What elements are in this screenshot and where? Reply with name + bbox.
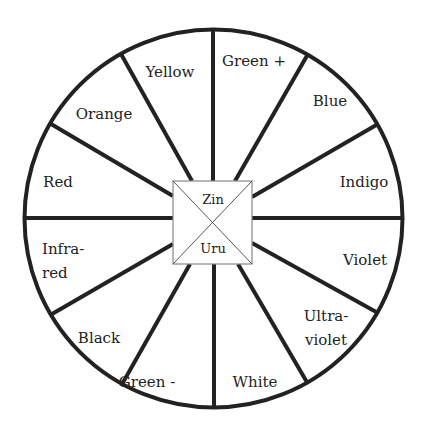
segment-label-white: White [233, 373, 278, 391]
segment-label-green-minus: Green - [119, 373, 175, 391]
segment-label-violet: Violet [342, 251, 387, 269]
segment-label-orange: Orange [76, 105, 133, 123]
segment-label-yellow: Yellow [145, 63, 195, 81]
segment-label-blue: Blue [313, 92, 347, 110]
center-top-label: Zin [202, 192, 224, 207]
segment-label-black: Black [78, 329, 121, 347]
segment-label-ultraviolet-line1: Ultra- [304, 307, 349, 325]
center-bottom-label: Uru [200, 241, 226, 256]
segment-label-green-plus: Green + [222, 52, 286, 70]
segment-label-infrared-line2: red [42, 264, 68, 282]
segment-label-infrared-line1: Infra- [42, 240, 84, 258]
segment-label-ultraviolet-line2: violet [304, 331, 347, 349]
color-wheel-diagram: Zin Uru Green + Blue Indigo Violet Ultra… [0, 0, 425, 433]
segment-label-red: Red [43, 173, 73, 191]
segment-label-indigo: Indigo [340, 173, 389, 191]
